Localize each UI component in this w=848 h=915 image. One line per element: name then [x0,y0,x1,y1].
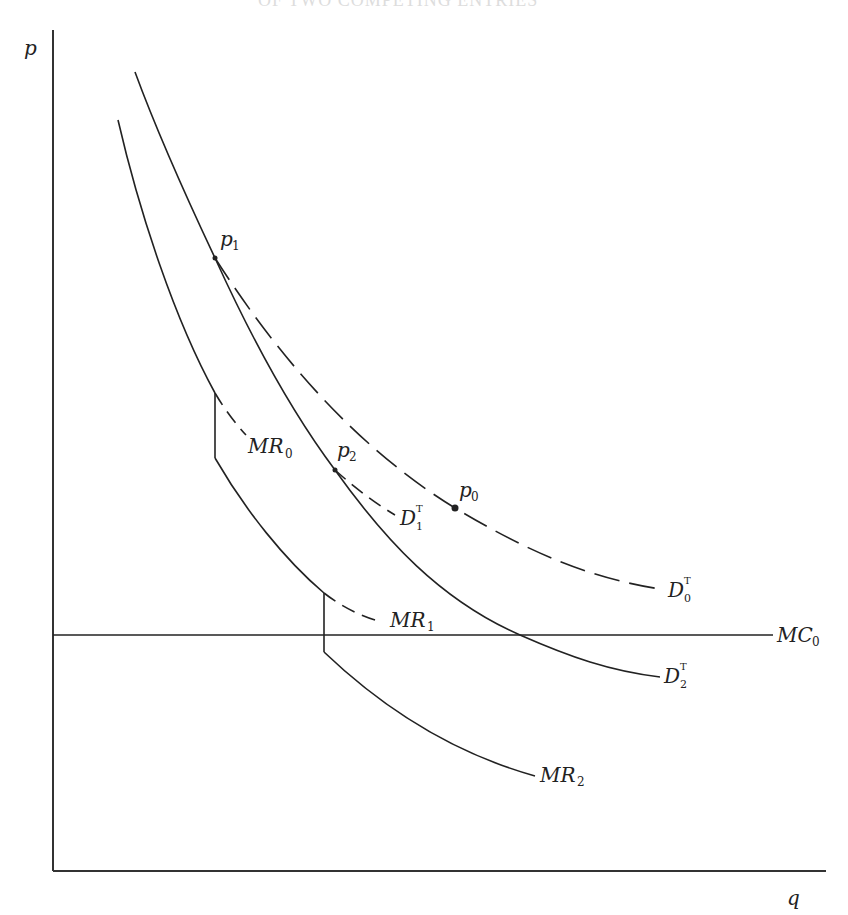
svg-text:2: 2 [577,775,585,789]
svg-text:0: 0 [471,490,479,504]
svg-text:0: 0 [684,592,691,605]
svg-text:MC: MC [776,623,813,647]
svg-text:D: D [399,506,416,530]
d1t-curve [335,470,395,515]
svg-text:2: 2 [349,450,357,464]
p1-label: p 1 [220,227,240,253]
p0-marker [452,505,459,512]
p0-label: p 0 [459,478,479,504]
mr1-curve [215,458,324,593]
header-text: OF TWO COMPETING ENTRIES [258,0,538,10]
mr0-label: MR 0 [247,434,293,461]
svg-text:MR: MR [389,608,426,632]
svg-text:MR: MR [539,763,576,787]
svg-text:1: 1 [427,620,435,634]
svg-text:0: 0 [812,635,820,649]
svg-text:D: D [667,578,684,602]
svg-text:D: D [663,664,680,688]
svg-text:1: 1 [416,520,423,533]
d0t-curve [215,258,660,589]
mr2-curve [324,652,535,776]
demand-diagram: OF TWO COMPETING ENTRIES p q p 1 p 2 p 0 [0,0,848,915]
svg-text:1: 1 [232,239,240,253]
d2t-label: D T 2 [663,661,687,691]
svg-text:MR: MR [247,434,284,458]
p2-label: p 2 [337,438,357,464]
svg-text:2: 2 [680,678,687,691]
p2-marker [333,468,338,473]
mr-upper-curve [118,120,215,393]
mr0-curve [215,393,246,435]
d0t-label: D T 0 [667,575,691,605]
svg-text:T: T [680,661,687,672]
mr1-label: MR 1 [389,608,435,634]
svg-text:T: T [684,575,691,586]
mr1-dashed-curve [324,593,382,622]
d1t-label: D T 1 [399,503,423,533]
p1-marker [213,256,218,261]
svg-text:0: 0 [285,447,293,461]
mc0-label: MC 0 [776,623,820,649]
mr2-label: MR 2 [539,763,585,789]
x-axis-label: q [787,886,800,910]
d2t-curve [135,72,660,677]
svg-text:T: T [416,503,423,514]
y-axis-label: p [24,36,37,60]
